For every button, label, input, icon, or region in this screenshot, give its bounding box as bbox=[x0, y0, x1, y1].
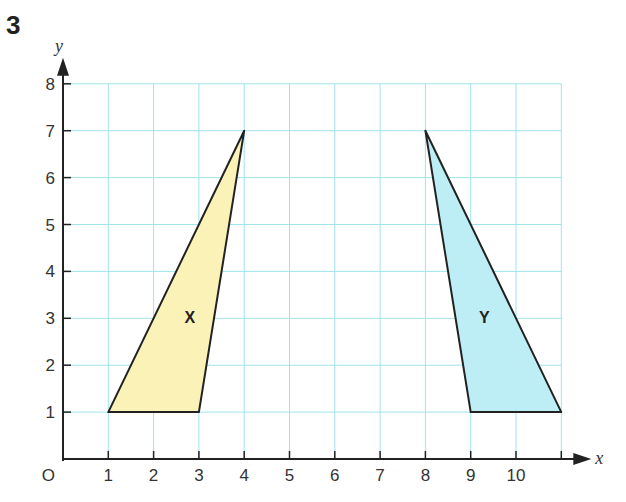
x-tick-label: 5 bbox=[285, 466, 294, 485]
x-tick-label: 9 bbox=[466, 466, 475, 485]
coordinate-plot: XY1234567891012345678Oxy bbox=[0, 0, 626, 502]
x-tick-label: 8 bbox=[421, 466, 430, 485]
y-tick-label: 8 bbox=[46, 75, 55, 94]
y-axis-arrow-icon bbox=[57, 58, 69, 76]
shape-label-y: Y bbox=[479, 309, 490, 326]
x-tick-label: 4 bbox=[239, 466, 248, 485]
y-tick-label: 4 bbox=[46, 262, 55, 281]
y-tick-label: 5 bbox=[46, 216, 55, 235]
y-axis-label: y bbox=[53, 36, 63, 56]
y-tick-label: 7 bbox=[46, 122, 55, 141]
x-tick-label: 1 bbox=[104, 466, 113, 485]
x-tick-label: 6 bbox=[330, 466, 339, 485]
x-axis-label: x bbox=[594, 448, 603, 468]
origin-label: O bbox=[42, 466, 55, 485]
y-tick-label: 3 bbox=[46, 309, 55, 328]
y-tick-label: 2 bbox=[46, 356, 55, 375]
y-tick-label: 1 bbox=[46, 403, 55, 422]
x-tick-label: 7 bbox=[375, 466, 384, 485]
y-tick-label: 6 bbox=[46, 169, 55, 188]
x-tick-label: 3 bbox=[194, 466, 203, 485]
shape-label-x: X bbox=[185, 309, 196, 326]
x-axis-arrow-icon bbox=[573, 453, 591, 465]
x-tick-label: 2 bbox=[149, 466, 158, 485]
x-tick-label: 10 bbox=[507, 466, 526, 485]
